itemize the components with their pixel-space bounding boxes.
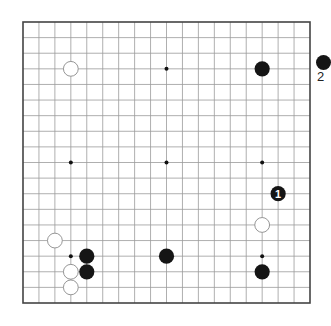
black-stone: 1 [271,186,286,201]
white-stone [255,218,270,233]
star-point [69,254,73,258]
black-stone [79,264,94,279]
white-stone [63,264,78,279]
star-point [69,161,73,165]
black-stone [159,249,174,264]
black-stone [79,249,94,264]
black-stone [255,61,270,76]
black-stone [255,264,270,279]
star-point [165,161,169,165]
white-stone [63,280,78,295]
caption-black-stone-icon [316,55,331,70]
move-number-label: 1 [275,188,281,200]
white-stone [63,61,78,76]
star-point [260,254,264,258]
white-stone [47,233,62,248]
star-point [260,161,264,165]
caption-text-fragment: 2 [317,70,324,83]
star-point [165,67,169,71]
